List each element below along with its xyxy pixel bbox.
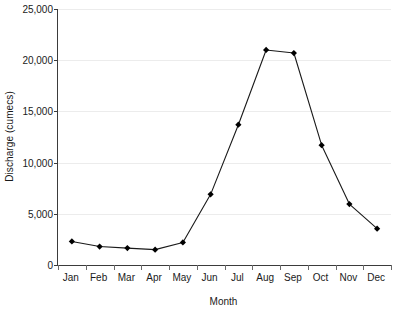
plot-area [57, 9, 391, 266]
x-axis-tick-labels: JanFebMarAprMayJunJulAugSepOctNovDec [57, 272, 390, 288]
x-tick-mark [197, 265, 198, 270]
x-tick-mark [391, 265, 392, 270]
x-tick-mark [363, 265, 364, 270]
y-tick-label: 10,000 [22, 157, 53, 168]
y-axis-title: Discharge (cumecs) [0, 0, 18, 272]
data-point-marker [97, 243, 103, 249]
x-tick-mark [308, 265, 309, 270]
x-tick-mark [225, 265, 226, 270]
y-axis-tick-labels: 05,00010,00015,00020,00025,000 [18, 0, 56, 272]
x-tick-label: Jun [202, 272, 218, 283]
x-tick-label: Jul [231, 272, 244, 283]
x-tick-label: Apr [146, 272, 162, 283]
y-tick-mark [54, 60, 58, 61]
data-point-marker [124, 245, 130, 251]
x-tick-label: Feb [90, 272, 107, 283]
y-tick-mark [54, 111, 58, 112]
y-tick-label: 25,000 [22, 4, 53, 15]
x-tick-label: Nov [339, 272, 357, 283]
x-tick-mark [86, 265, 87, 270]
x-axis-title: Month [57, 296, 390, 307]
data-point-marker [152, 247, 158, 253]
x-tick-mark [336, 265, 337, 270]
data-point-marker [208, 191, 214, 197]
y-tick-mark [54, 9, 58, 10]
y-tick-label: 0 [47, 260, 53, 271]
y-tick-mark [54, 214, 58, 215]
y-tick-label: 15,000 [22, 106, 53, 117]
x-tick-label: May [172, 272, 191, 283]
x-tick-mark [280, 265, 281, 270]
x-tick-label: Oct [313, 272, 329, 283]
data-point-marker [180, 239, 186, 245]
x-tick-label: Aug [256, 272, 274, 283]
y-tick-label: 5,000 [28, 208, 53, 219]
discharge-line-chart: Discharge (cumecs) 05,00010,00015,00020,… [0, 0, 403, 320]
y-tick-label: 20,000 [22, 55, 53, 66]
x-tick-label: Dec [367, 272, 385, 283]
data-point-marker [291, 50, 297, 56]
data-point-marker [235, 122, 241, 128]
data-point-marker [69, 238, 75, 244]
x-tick-mark [252, 265, 253, 270]
series-line [72, 50, 377, 250]
x-tick-mark [114, 265, 115, 270]
x-tick-label: Mar [118, 272, 135, 283]
x-tick-label: Jan [63, 272, 79, 283]
data-point-marker [263, 47, 269, 53]
series-discharge [58, 9, 391, 265]
series-markers [69, 47, 380, 253]
data-point-marker [319, 142, 325, 148]
y-tick-mark [54, 163, 58, 164]
x-tick-mark [58, 265, 59, 270]
x-tick-label: Sep [284, 272, 302, 283]
y-axis-title-label: Discharge (cumecs) [4, 91, 15, 182]
x-tick-mark [141, 265, 142, 270]
x-tick-mark [169, 265, 170, 270]
